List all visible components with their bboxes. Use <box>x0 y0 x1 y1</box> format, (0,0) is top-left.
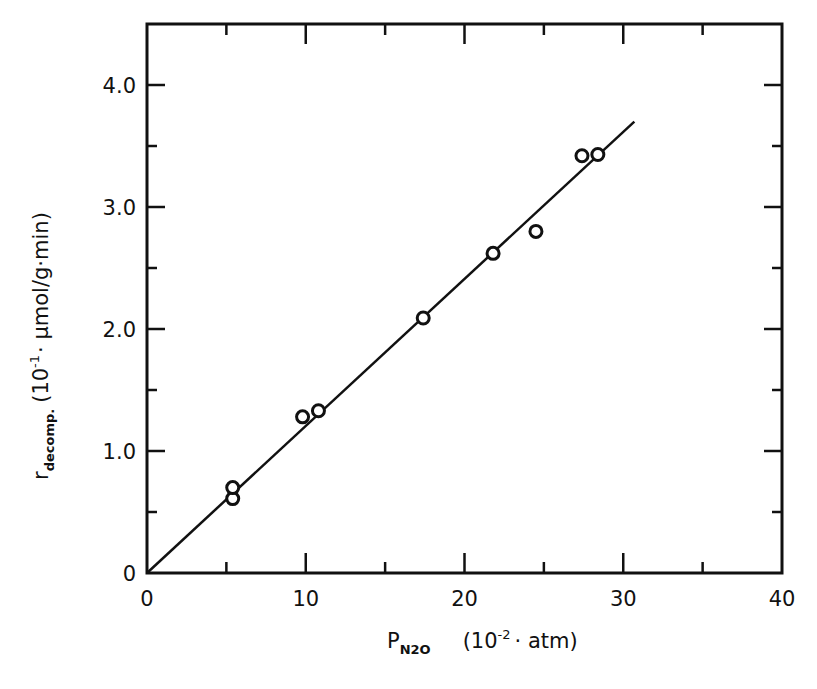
x-tick-label: 20 <box>451 587 478 611</box>
x-tick-label: 40 <box>769 587 796 611</box>
y-axis-label: rdecomp.(10-1· µmol/g·min) <box>27 212 57 480</box>
data-point-marker <box>530 225 542 237</box>
y-tick-label: 3.0 <box>103 196 136 220</box>
data-point-marker <box>487 247 499 259</box>
y-tick-label: 0 <box>123 562 136 586</box>
data-point-marker <box>592 149 604 161</box>
x-axis-label: PN2O(10-2· atm) <box>387 627 578 657</box>
y-tick-label: 1.0 <box>103 440 136 464</box>
chart: 01020304001.02.03.04.0 PN2O(10-2· atm) r… <box>0 0 817 689</box>
data-point-marker <box>297 411 309 423</box>
x-tick-label: 0 <box>140 587 153 611</box>
y-tick-label: 4.0 <box>103 74 136 98</box>
data-point-marker <box>227 482 239 494</box>
data-point-marker <box>576 150 588 162</box>
fit-line <box>147 122 634 573</box>
data-point-marker <box>417 312 429 324</box>
axis-tick-labels: 01020304001.02.03.04.0 <box>103 74 796 611</box>
plot-frame <box>147 24 782 573</box>
fit-line-segment <box>147 122 634 573</box>
x-tick-label: 30 <box>610 587 637 611</box>
x-tick-label: 10 <box>292 587 319 611</box>
data-point-marker <box>312 405 324 417</box>
y-tick-label: 2.0 <box>103 318 136 342</box>
axis-ticks <box>147 24 782 573</box>
